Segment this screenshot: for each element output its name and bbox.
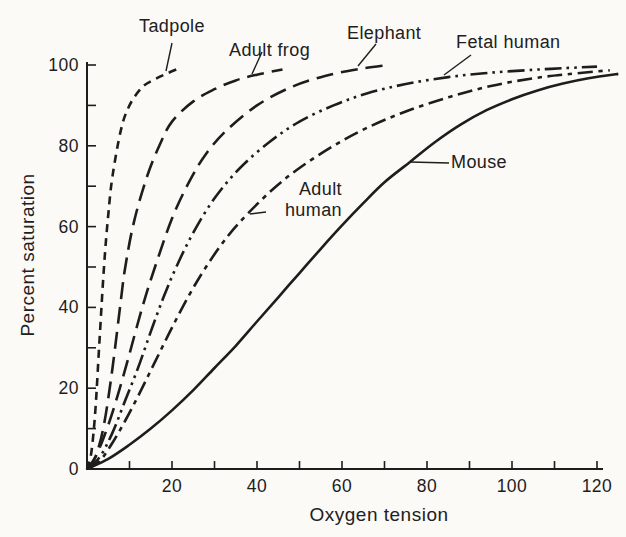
- x-tick-label: 40: [247, 476, 267, 496]
- curve-adult-frog: [87, 69, 283, 469]
- x-tick-label: 80: [417, 476, 437, 496]
- y-tick-label: 80: [59, 136, 79, 156]
- y-tick-label: 100: [48, 55, 79, 75]
- x-tick-label: 20: [162, 476, 182, 496]
- y-tick-label: 20: [59, 378, 79, 398]
- pointer-line-mouse: [410, 162, 449, 163]
- pointer-line-fetal-human: [444, 55, 471, 75]
- oxygen-dissociation-figure: 20406080100120020406080100 TadpoleAdult …: [0, 0, 626, 537]
- x-axis-title: Oxygen tension: [309, 504, 448, 526]
- curve-elephant: [87, 65, 389, 469]
- pointer-line-adult-frog: [252, 52, 262, 74]
- x-tick-label: 120: [582, 476, 613, 496]
- x-tick-label: 60: [332, 476, 352, 496]
- x-tick-label: 100: [497, 476, 528, 496]
- pointer-line-elephant: [358, 44, 376, 66]
- y-axis-title: Percent saturation: [17, 173, 39, 336]
- plot-canvas: 20406080100120020406080100: [0, 0, 626, 537]
- axes-lines: [87, 62, 603, 469]
- curve-mouse: [87, 74, 618, 469]
- curve-fetal-human: [87, 67, 597, 469]
- y-tick-label: 60: [59, 217, 79, 237]
- pointer-line-adult-human: [250, 212, 266, 214]
- pointer-line-tadpole: [166, 43, 172, 71]
- y-tick-label: 0: [69, 459, 79, 479]
- y-tick-label: 40: [59, 297, 79, 317]
